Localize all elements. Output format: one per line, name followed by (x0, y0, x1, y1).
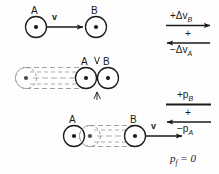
puck-a-before (26, 17, 47, 38)
label-puck-b-contact: B (103, 57, 110, 67)
p-a-term: −pA (177, 124, 193, 136)
delta-v-b-subscript: B (188, 16, 193, 23)
momentum-block-operator: + (185, 108, 191, 118)
final-momentum-value: 0 (191, 152, 197, 164)
label-velocity-b: v (151, 122, 156, 131)
p-b-term: +pB (177, 90, 193, 102)
final-momentum-relation: = (180, 152, 187, 164)
velocity-block-operator: + (185, 29, 191, 39)
puck-b-before (86, 17, 107, 38)
final-momentum-subscript: f (176, 158, 178, 167)
label-puck-a-contact: A (81, 57, 88, 67)
row-after-collision (64, 126, 183, 147)
row-before-collision (26, 17, 107, 38)
delta-v-b-term: +ΔvB (170, 11, 192, 23)
puck-a-after (64, 126, 85, 147)
puck-b-contact (98, 68, 119, 89)
physics-collision-figure: A v B A B A B v +ΔvB + −ΔvA +pB + −pA pf… (0, 0, 219, 174)
label-puck-b-after: B (130, 115, 137, 125)
label-puck-a-after: A (69, 115, 76, 125)
label-puck-b-before: B (91, 6, 98, 16)
figure-vector-layer (0, 0, 219, 174)
final-momentum-equation: pf = 0 (170, 153, 196, 167)
delta-v-b-symbol: Δv (176, 10, 188, 21)
delta-v-a-subscript: A (188, 50, 193, 57)
p-b-subscript: B (188, 95, 193, 102)
label-velocity-a: v (52, 13, 57, 22)
p-a-subscript: A (188, 129, 193, 136)
puck-b-after (125, 126, 146, 147)
puck-a-contact (76, 68, 97, 89)
label-puck-a-before: A (31, 6, 38, 16)
delta-v-a-term: −ΔvA (170, 45, 192, 57)
delta-v-a-symbol: Δv (176, 44, 188, 55)
